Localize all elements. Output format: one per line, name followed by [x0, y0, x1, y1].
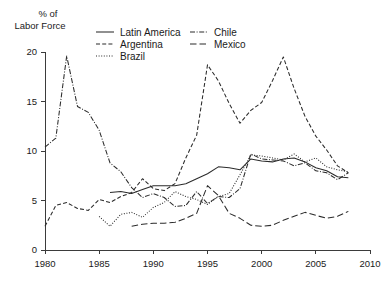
y-tick-label: 10 — [26, 145, 37, 156]
x-tick-label: 2000 — [251, 258, 272, 269]
x-tick-label: 1995 — [197, 258, 218, 269]
y-tick-label: 20 — [26, 46, 37, 57]
y-axis-ticks: 05101520 — [26, 46, 45, 255]
legend-label-argentina: Argentina — [120, 39, 163, 50]
chart-container: % of Labor Force Latin AmericaArgentinaB… — [0, 0, 392, 293]
axes — [45, 52, 370, 250]
x-tick-label: 2010 — [359, 258, 380, 269]
y-axis-title: % of Labor Force — [14, 8, 65, 31]
x-axis-ticks: 1980198519901995200020052010 — [34, 250, 380, 269]
x-tick-label: 1985 — [89, 258, 110, 269]
y-axis-title-line2: Labor Force — [14, 20, 65, 31]
y-tick-label: 15 — [26, 96, 37, 107]
series-line-chile — [45, 56, 348, 206]
series-line-latin-america — [110, 158, 348, 194]
legend-label-chile: Chile — [214, 27, 237, 38]
x-tick-label: 2005 — [305, 258, 326, 269]
data-series-group — [45, 56, 348, 226]
x-tick-label: 1980 — [34, 258, 55, 269]
legend-label-brazil: Brazil — [120, 51, 145, 62]
x-tick-label: 1990 — [143, 258, 164, 269]
y-tick-label: 5 — [32, 195, 37, 206]
line-chart: % of Labor Force Latin AmericaArgentinaB… — [0, 0, 392, 293]
legend-label-mexico: Mexico — [214, 39, 246, 50]
series-line-argentina — [45, 57, 348, 226]
series-line-mexico — [132, 186, 349, 227]
y-tick-label: 0 — [32, 244, 37, 255]
y-axis-title-line1: % of — [38, 8, 57, 19]
legend: Latin AmericaArgentinaBrazilChileMexico — [96, 27, 246, 62]
legend-label-latin-america: Latin America — [120, 27, 181, 38]
